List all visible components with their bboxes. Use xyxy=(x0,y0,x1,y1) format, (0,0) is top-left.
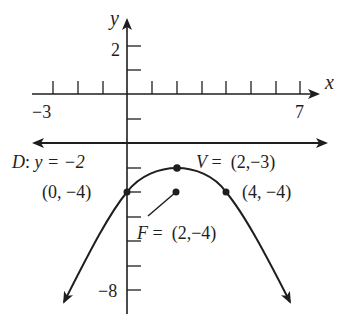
focus-coords: (2,−4) xyxy=(172,223,217,243)
point-label-4-neg4: (4, −4) xyxy=(242,183,291,201)
focus-label: F = (2,−4) xyxy=(137,224,216,242)
y-tick-label-2: 2 xyxy=(111,41,120,59)
x-axis-label: x xyxy=(325,72,334,92)
x-tick-label-neg3: −3 xyxy=(32,103,51,121)
x-ticks xyxy=(53,81,300,94)
focus-name: F xyxy=(137,223,148,243)
focus-point xyxy=(173,189,180,196)
vertex-point xyxy=(173,164,181,172)
vertex-label: V = (2,−3) xyxy=(196,153,275,171)
vertex-coords: (2,−3) xyxy=(231,152,276,172)
focus-pointer-line xyxy=(148,192,176,216)
directrix-equation: y = −2 xyxy=(35,152,85,172)
y-axis-label: y xyxy=(110,8,119,28)
directrix-label: D: y = −2 xyxy=(12,153,85,171)
x-tick-label-7: 7 xyxy=(295,103,304,121)
point-0-neg4 xyxy=(124,189,131,196)
y-ticks xyxy=(127,46,141,290)
point-4-neg4 xyxy=(223,189,230,196)
y-tick-label-neg8: −8 xyxy=(98,282,117,300)
vertex-name: V xyxy=(196,152,207,172)
directrix-name: D xyxy=(12,152,25,172)
point-label-0-neg4: (0, −4) xyxy=(42,183,91,201)
